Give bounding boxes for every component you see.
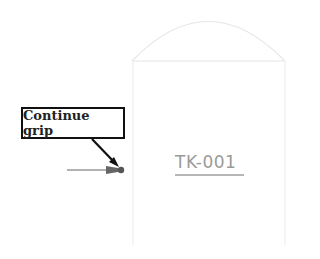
callout-label-box: Continue grip: [21, 107, 125, 139]
continue-grip-icon[interactable]: [106, 166, 124, 174]
tank-dome[interactable]: [132, 22, 285, 62]
tank-tag-label[interactable]: TK-001: [175, 152, 236, 172]
callout-arrow-icon: [92, 139, 119, 167]
callout-label: Continue grip: [23, 108, 123, 138]
